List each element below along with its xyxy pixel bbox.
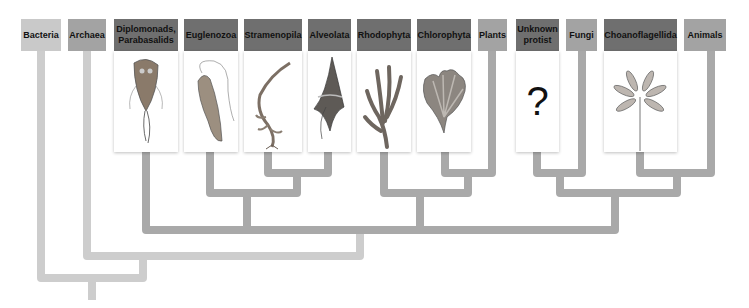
taxon-label-bacteria: Bacteria — [21, 19, 61, 51]
stramenopila-illustration — [244, 51, 302, 152]
taxon-label-stramenopila: Stramenopila — [244, 19, 302, 51]
taxon-label-archaea: Archaea — [68, 19, 106, 51]
taxon-label-unknown-protist: Unknown protist — [516, 19, 559, 51]
taxon-label-rhodophyta: Rhodophyta — [357, 19, 411, 51]
taxon-label-fungi: Fungi — [566, 19, 597, 51]
taxon-label-choanoflagellida: Choanoflagellida — [604, 19, 677, 51]
taxon-label-euglenozoa: Euglenozoa — [184, 19, 238, 51]
red-alga-icon — [357, 51, 411, 152]
taxon-label-plants: Plants — [478, 19, 507, 51]
euglena-icon — [184, 51, 238, 152]
question-mark-icon: ? — [516, 51, 559, 152]
chlorophyta-illustration — [417, 51, 471, 152]
diplomonad-illustration — [114, 51, 178, 152]
giardia-icon — [114, 51, 178, 152]
rhodophyta-illustration — [357, 51, 411, 152]
choanoflagellate-colony-icon — [604, 51, 677, 152]
taxon-label-alveolata: Alveolata — [308, 19, 351, 51]
green-alga-icon — [417, 51, 471, 152]
unknown-protist-illustration: ? — [516, 51, 559, 152]
stramenopila-alveolata-branch — [268, 152, 328, 173]
alveolata-illustration — [308, 51, 351, 152]
taxon-label-chlorophyta: Chlorophyta — [417, 19, 471, 51]
taxon-label-diplomonads: Diplomonads, Parabasalids — [114, 19, 178, 51]
choanoflagellida-illustration — [604, 51, 677, 152]
dinoflagellate-icon — [308, 51, 351, 152]
taxon-label-animals: Animals — [684, 19, 726, 51]
euglenozoa-illustration — [184, 51, 238, 152]
kelp-icon — [244, 51, 302, 152]
